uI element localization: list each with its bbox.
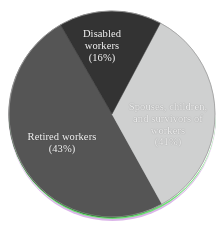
- slice-label-line: Retired workers: [10, 131, 114, 143]
- pie-chart-figure: Disabled workers (16%) Spouses, children…: [0, 0, 224, 227]
- slice-label-line: and survivors of: [118, 113, 218, 125]
- slice-label-percent: (41%): [118, 136, 218, 148]
- slice-label-line: workers: [118, 125, 218, 137]
- slice-label-spouses-children-survivors: Spouses, children, and survivors of work…: [118, 101, 218, 148]
- slice-label-disabled-workers: Disabled workers (16%): [56, 28, 148, 63]
- slice-label-percent: (43%): [10, 143, 114, 155]
- slice-label-line: Disabled: [56, 28, 148, 40]
- slice-label-line: Spouses, children,: [118, 101, 218, 113]
- slice-label-line: workers: [56, 40, 148, 52]
- slice-label-percent: (16%): [56, 52, 148, 64]
- slice-label-retired-workers: Retired workers (43%): [10, 131, 114, 155]
